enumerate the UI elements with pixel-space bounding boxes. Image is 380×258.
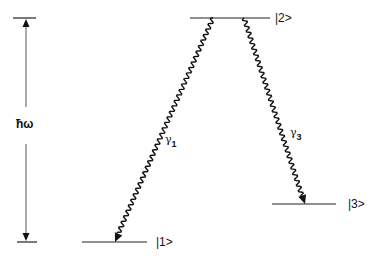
level-3-label: |3> <box>348 197 365 211</box>
level-2-label: |2> <box>275 11 292 25</box>
arrowhead-up-icon <box>23 19 30 27</box>
gamma-symbol: γ <box>165 133 172 146</box>
arrowhead-down-icon <box>23 233 30 241</box>
gamma1-subscript: 1 <box>172 139 177 149</box>
gamma3-subscript: 3 <box>297 132 302 142</box>
energy-gap-label: ħω <box>16 117 33 131</box>
gamma3-label: γ3 <box>290 125 302 139</box>
level-1-label: |1> <box>156 235 173 249</box>
energy-diagram-canvas <box>0 0 380 258</box>
transition-gamma3-wavy-arrow <box>243 18 304 196</box>
transition-gamma1-wavy-arrow <box>117 18 213 232</box>
arrowhead-gamma3-icon <box>298 194 306 204</box>
arrowhead-gamma1-icon <box>115 232 122 242</box>
gamma1-label: γ1 <box>165 132 177 146</box>
gamma-symbol: γ <box>290 126 297 139</box>
